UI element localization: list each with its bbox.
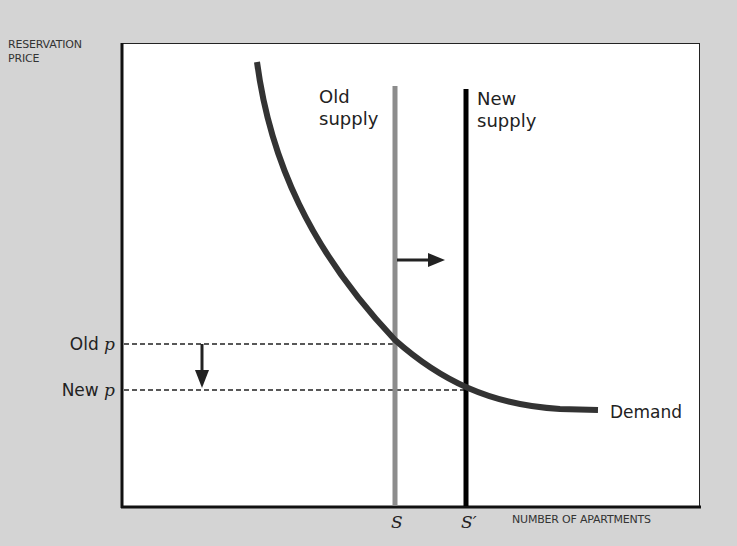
new-price-label: New p bbox=[62, 380, 115, 400]
x-axis-title: NUMBER OF APARTMENTS bbox=[512, 513, 651, 526]
y-axis-title-line2: PRICE bbox=[8, 52, 82, 66]
old-price-symbol: p bbox=[104, 334, 115, 354]
new-supply-label-line2: supply bbox=[477, 110, 536, 132]
new-supply-label-line1: New bbox=[477, 88, 536, 110]
supply-shift-arrow-icon bbox=[397, 253, 445, 267]
y-axis-title-line1: RESERVATION bbox=[8, 38, 82, 52]
price-drop-arrow-icon bbox=[195, 344, 209, 388]
old-price-prefix: Old bbox=[70, 334, 104, 354]
new-supply-label: New supply bbox=[477, 88, 536, 132]
new-price-prefix: New bbox=[62, 380, 104, 400]
new-price-symbol: p bbox=[104, 380, 115, 400]
demand-curve bbox=[257, 62, 598, 410]
old-price-label: Old p bbox=[70, 334, 115, 354]
new-supply-tick-label: S′ bbox=[461, 512, 477, 532]
demand-label: Demand bbox=[610, 402, 682, 422]
diagram-canvas bbox=[0, 0, 737, 546]
old-supply-label: Old supply bbox=[319, 86, 378, 130]
old-supply-label-line1: Old bbox=[319, 86, 378, 108]
old-supply-tick-label: S bbox=[391, 512, 403, 532]
y-axis-title: RESERVATION PRICE bbox=[8, 38, 82, 66]
old-supply-label-line2: supply bbox=[319, 108, 378, 130]
